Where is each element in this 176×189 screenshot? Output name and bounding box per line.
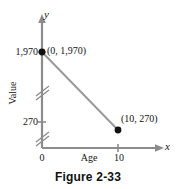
y-axis-tick-label-low: 270	[0, 117, 38, 127]
plot-graphics	[0, 0, 176, 168]
data-point-b	[115, 127, 122, 134]
x-axis-tick-label-ten: 10	[110, 153, 128, 163]
x-axis-title: Age	[74, 153, 104, 163]
plot-area: 1,970 270 Value (0, 1,970) (10, 270) 0 A…	[0, 0, 176, 168]
figure-caption: Figure 2-33	[0, 170, 176, 184]
data-line-segment	[42, 52, 118, 130]
data-point-a-annotation: (0, 1,970)	[47, 46, 86, 56]
x-axis-name: x	[165, 141, 170, 152]
data-point-a	[39, 49, 46, 56]
figure-2-33: 1,970 270 Value (0, 1,970) (10, 270) 0 A…	[0, 0, 176, 189]
data-point-b-annotation: (10, 270)	[121, 114, 158, 124]
y-axis-title: Value	[8, 71, 18, 115]
x-axis-origin-label: 0	[36, 153, 48, 163]
y-axis-name: y	[44, 9, 49, 20]
y-axis-tick-label-high: 1,970	[0, 47, 38, 57]
x-axis-arrowhead	[155, 144, 164, 151]
